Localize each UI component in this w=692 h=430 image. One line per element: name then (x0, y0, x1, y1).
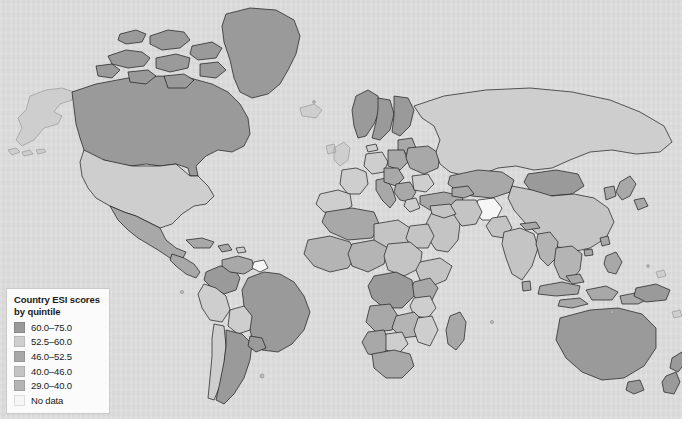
legend-item-q2[interactable]: 52.5–60.0 (14, 335, 103, 350)
legend-swatch-q3 (14, 351, 25, 362)
region-tasmania (626, 380, 644, 394)
region-romania-bulgaria (412, 174, 434, 192)
region-japan (616, 176, 648, 210)
map-page: .ld { fill:#9a9a9a; stroke:#1a1a1a; stro… (0, 0, 692, 430)
legend-title: Country ESI scores by quintile (14, 294, 103, 317)
region-france (340, 168, 368, 194)
legend-label-q3: 46.0–52.5 (31, 351, 72, 362)
region-aleutian-islands (8, 148, 46, 156)
legend-title-line2: by quintile (14, 306, 103, 318)
region-australia (556, 308, 656, 380)
region-greece (404, 198, 420, 212)
region-guyana (252, 260, 268, 272)
legend-swatch-q2 (14, 336, 25, 347)
legend-label-q1: 60.0–75.0 (31, 322, 72, 333)
region-alaska (16, 88, 74, 146)
legend-label-q5: 29.0–40.0 (31, 380, 72, 391)
region-caribbean (186, 238, 246, 253)
region-new-zealand (662, 352, 682, 394)
region-korea (604, 186, 616, 200)
region-morocco-algeria (322, 208, 380, 240)
region-india (502, 228, 538, 280)
region-russia (414, 88, 672, 176)
legend-item-q3[interactable]: 46.0–52.5 (14, 349, 103, 364)
region-nigeria-niger (348, 240, 388, 272)
region-indonesia (538, 282, 650, 308)
region-ukraine-belarus (406, 146, 440, 174)
legend-item-q1[interactable]: 60.0–75.0 (14, 320, 103, 335)
legend-swatch-q5 (14, 380, 25, 391)
region-south-africa (372, 350, 414, 378)
legend-label-q4: 40.0–46.0 (31, 366, 72, 377)
legend-item-q4[interactable]: 40.0–46.0 (14, 364, 103, 379)
region-finland (392, 96, 414, 136)
region-greenland (222, 8, 300, 98)
region-mozambique (414, 316, 438, 346)
region-central-america (170, 254, 200, 278)
region-congo (368, 272, 414, 308)
legend-swatch-q1 (14, 322, 25, 333)
legend-label-no-data: No data (31, 395, 63, 406)
legend-item-no-data[interactable]: No data (14, 393, 103, 408)
region-malaysia (566, 274, 584, 284)
region-united-kingdom (326, 142, 350, 166)
legend-swatch-q4 (14, 366, 25, 377)
region-philippines (604, 252, 622, 274)
region-sri-lanka (522, 281, 531, 291)
legend-title-line1: Country ESI scores (14, 294, 103, 306)
legend-label-q2: 52.5–60.0 (31, 336, 72, 347)
region-madagascar (446, 312, 466, 350)
legend-swatch-no-data (14, 395, 25, 406)
legend-item-q5[interactable]: 29.0–40.0 (14, 378, 103, 393)
region-iceland (300, 104, 322, 118)
region-denmark (366, 144, 378, 152)
region-poland (388, 150, 408, 170)
map-legend: Country ESI scores by quintile 60.0–75.0… (6, 288, 110, 414)
